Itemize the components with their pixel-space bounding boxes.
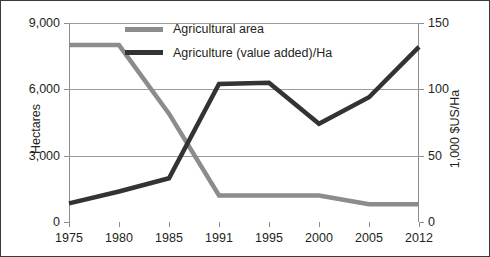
x-tick-mark: [169, 222, 170, 227]
series-line: [69, 47, 419, 204]
legend-label: Agricultural area: [173, 23, 264, 36]
left-axis-title: Hectares: [30, 103, 43, 153]
x-tick-label: 2005: [355, 232, 383, 245]
right-tick-label: 150: [428, 17, 449, 30]
x-tick-mark: [269, 222, 270, 227]
x-tick-label: 1985: [155, 232, 183, 245]
right-tick-label: 0: [428, 216, 435, 229]
right-tick-label: 100: [428, 83, 449, 96]
x-tick-label: 2012: [405, 232, 433, 245]
legend-label: Agriculture (value added)/Ha: [173, 47, 332, 60]
right-axis-title: 1,000 $US/Ha: [449, 89, 462, 168]
left-tick-label: 3,000: [29, 150, 60, 163]
left-tick-label: 0: [53, 216, 60, 229]
x-tick-mark: [369, 222, 370, 227]
x-tick-mark: [419, 222, 420, 227]
right-tick-label: 50: [428, 150, 442, 163]
right-tick-mark: [419, 23, 424, 24]
x-tick-mark: [219, 222, 220, 227]
right-tick-mark: [419, 89, 424, 90]
chart-legend: Agricultural areaAgriculture (value adde…: [125, 23, 332, 59]
x-tick-mark: [119, 222, 120, 227]
x-tick-label: 1995: [255, 232, 283, 245]
left-tick-label: 9,000: [29, 17, 60, 30]
x-tick-label: 1975: [55, 232, 83, 245]
legend-item: Agriculture (value added)/Ha: [125, 47, 332, 60]
x-tick-label: 1991: [205, 232, 233, 245]
chart-figure: Hectares 1,000 $US/Ha 03,0006,0009,000 0…: [0, 0, 490, 257]
legend-item: Agricultural area: [125, 23, 332, 36]
x-tick-label: 1980: [105, 232, 133, 245]
legend-swatch-icon: [125, 27, 163, 32]
legend-swatch-icon: [125, 50, 163, 55]
x-tick-label: 2000: [305, 232, 333, 245]
x-tick-mark: [69, 222, 70, 227]
series-line: [69, 45, 419, 204]
right-tick-mark: [419, 156, 424, 157]
x-tick-mark: [319, 222, 320, 227]
left-tick-label: 6,000: [29, 83, 60, 96]
